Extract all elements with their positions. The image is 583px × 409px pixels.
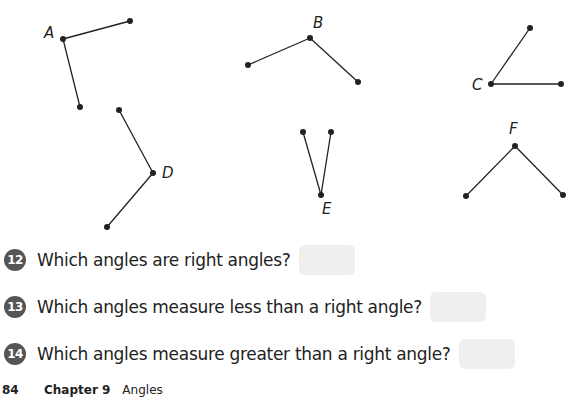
angle-label-f: F — [509, 122, 518, 137]
angle-d — [104, 107, 156, 230]
angle-a — [60, 18, 133, 110]
question-number-badge: 14 — [4, 343, 26, 365]
question-text: Which angles measure less than a right a… — [37, 297, 422, 317]
angle-e — [300, 129, 334, 198]
angles-diagram — [0, 0, 583, 240]
angle-label-d: D — [162, 166, 174, 181]
question-text: Which angles measure greater than a righ… — [37, 344, 451, 364]
angles-figure: A B C D E F — [0, 0, 583, 240]
question-12: 12 Which angles are right angles? — [4, 245, 355, 275]
question-13: 13 Which angles measure less than a righ… — [4, 292, 486, 322]
angle-label-e: E — [322, 202, 331, 217]
page-number: 84 — [2, 383, 44, 397]
angle-c — [488, 25, 564, 87]
chapter-label: Chapter 9 — [44, 383, 110, 397]
question-number-badge: 12 — [4, 249, 26, 271]
question-14: 14 Which angles measure greater than a r… — [4, 339, 515, 369]
question-number-badge: 13 — [4, 296, 26, 318]
angle-label-a: A — [44, 26, 54, 41]
angle-label-c: C — [472, 78, 482, 93]
answer-box-13[interactable] — [430, 292, 486, 322]
angle-b — [245, 35, 361, 85]
answer-box-14[interactable] — [459, 339, 515, 369]
angle-label-b: B — [313, 16, 323, 31]
chapter-title: Angles — [122, 383, 162, 397]
question-text: Which angles are right angles? — [37, 250, 291, 270]
answer-box-12[interactable] — [299, 245, 355, 275]
page-footer: 84 Chapter 9 Angles — [2, 383, 163, 397]
angle-f — [463, 143, 566, 199]
